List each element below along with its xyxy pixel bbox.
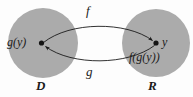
composition-label: f(g(y)) (129, 51, 160, 63)
function-composition-diagram: g(y) y f(g(y)) f g D R (0, 0, 193, 97)
arrow-f-label: f (86, 4, 90, 17)
domain-point-dot (39, 40, 44, 45)
range-set-label: R (148, 79, 157, 92)
arrow-g-label: g (86, 65, 93, 78)
domain-set-label: D (36, 79, 45, 92)
range-point-dot (153, 40, 158, 45)
range-point-label: y (162, 36, 167, 48)
domain-point-label: g(y) (7, 36, 26, 48)
